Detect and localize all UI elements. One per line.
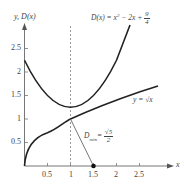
dmin-frac: √52 bbox=[104, 129, 113, 144]
dmin-eq: = bbox=[97, 131, 104, 140]
y-axis-arrow-icon bbox=[22, 23, 27, 30]
curve-D-label-lhs: D(x) = x bbox=[91, 13, 117, 22]
point-1.5 bbox=[91, 164, 96, 169]
x-axis-label: x bbox=[176, 161, 180, 169]
y-axis-label: y, D(x) bbox=[14, 13, 36, 21]
curve-D bbox=[25, 25, 131, 107]
x-tick-label: 2 bbox=[114, 171, 118, 179]
x-tick-label: 1 bbox=[69, 171, 73, 179]
curve-sqrt-label: y = √x bbox=[133, 96, 153, 104]
frac-den: 2 bbox=[107, 137, 111, 144]
y-tick-label: 0.5 bbox=[11, 138, 21, 146]
x-tick-label: 2.5 bbox=[134, 171, 144, 179]
y-tick-label: 1.5 bbox=[11, 91, 21, 99]
dmin-sub: min bbox=[89, 137, 97, 142]
x-axis-arrow-icon bbox=[167, 164, 174, 169]
x-tick-label: 0.5 bbox=[42, 171, 52, 179]
curve-D-label: D(x) = x2 − 2x + 94 bbox=[91, 11, 150, 26]
chart-canvas bbox=[0, 0, 184, 189]
y-tick-label: 2.5 bbox=[11, 44, 21, 52]
curve-D-label-mid: − 2x + bbox=[119, 13, 144, 22]
curve-D-label-frac: 94 bbox=[144, 11, 150, 26]
y-tick-label: 1 bbox=[17, 115, 21, 123]
x-tick-label: 1.5 bbox=[88, 171, 98, 179]
y-tick-label: 2 bbox=[17, 68, 21, 76]
dmin-label: Dmin= √52 bbox=[84, 129, 113, 144]
frac-den: 4 bbox=[145, 19, 149, 26]
